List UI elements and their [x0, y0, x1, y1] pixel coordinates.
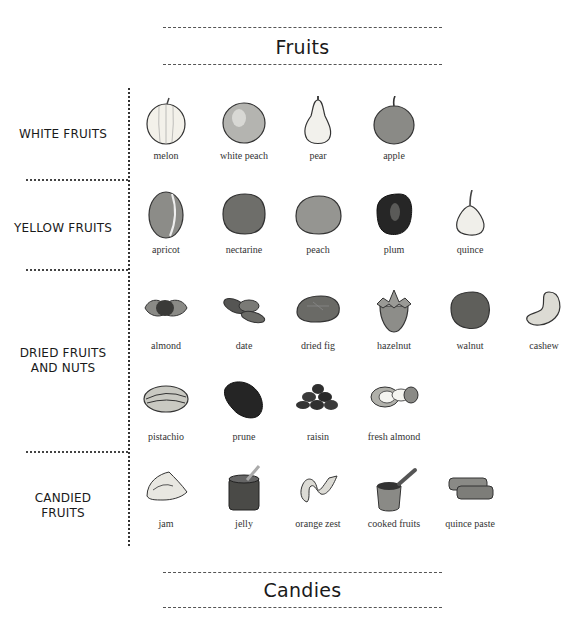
apricot-icon	[141, 190, 191, 240]
divider	[163, 64, 442, 65]
item-raisin: raisin	[280, 377, 356, 442]
category-label-line: CANDIED	[0, 491, 126, 506]
cashew-icon	[519, 286, 569, 336]
category-label-line: AND NUTS	[0, 361, 126, 376]
row-divider	[26, 179, 128, 181]
item-peach: peach	[280, 190, 356, 255]
divider	[163, 572, 442, 573]
item-quince-paste: quince paste	[432, 464, 508, 529]
item-melon: melon	[128, 96, 204, 161]
item-label: plum	[356, 244, 432, 255]
category-candied-fruits: CANDIED FRUITS	[0, 491, 126, 521]
nectarine-icon	[219, 190, 269, 240]
pistachio-icon	[141, 377, 191, 427]
item-walnut: walnut	[432, 286, 508, 351]
item-label: walnut	[432, 340, 508, 351]
row-divider	[26, 269, 128, 271]
candies-section-header: Candies	[163, 572, 442, 608]
pear-icon	[293, 96, 343, 146]
item-jam: jam	[128, 464, 204, 529]
item-date: date	[206, 286, 282, 351]
candies-title: Candies	[163, 575, 442, 605]
item-label: quince paste	[432, 518, 508, 529]
item-label: melon	[128, 150, 204, 161]
item-dried-fig: dried fig	[280, 286, 356, 351]
item-label: peach	[280, 244, 356, 255]
dried-fig-icon	[293, 286, 343, 336]
white-peach-icon	[219, 96, 269, 146]
item-label: jam	[128, 518, 204, 529]
category-label-line: FRUITS	[0, 506, 126, 521]
jam-icon	[141, 464, 191, 514]
item-label: pistachio	[128, 431, 204, 442]
item-label: cooked fruits	[356, 518, 432, 529]
walnut-icon	[445, 286, 495, 336]
item-label: apricot	[128, 244, 204, 255]
item-plum: plum	[356, 190, 432, 255]
prune-icon	[219, 377, 269, 427]
quince-icon	[445, 190, 495, 240]
jelly-icon	[219, 464, 269, 514]
row-divider	[26, 451, 128, 453]
melon-icon	[141, 96, 191, 146]
item-nectarine: nectarine	[206, 190, 282, 255]
orange-zest-icon	[293, 464, 343, 514]
category-label-line: DRIED FRUITS	[0, 346, 126, 361]
item-fresh-almond: fresh almond	[356, 377, 432, 442]
quince-paste-icon	[445, 464, 495, 514]
category-yellow-fruits: YELLOW FRUITS	[0, 221, 126, 236]
item-label: orange zest	[280, 518, 356, 529]
apple-icon	[369, 96, 419, 146]
item-label: pear	[280, 150, 356, 161]
hazelnut-icon	[369, 286, 419, 336]
raisin-icon	[293, 377, 343, 427]
divider	[163, 27, 442, 28]
cooked-fruits-icon	[369, 464, 419, 514]
almond-icon	[141, 286, 191, 336]
category-dried-fruits-and-nuts: DRIED FRUITS AND NUTS	[0, 346, 126, 376]
item-orange-zest: orange zest	[280, 464, 356, 529]
item-label: prune	[206, 431, 282, 442]
item-cashew: cashew	[506, 286, 579, 351]
item-prune: prune	[206, 377, 282, 442]
item-label: apple	[356, 150, 432, 161]
item-label: raisin	[280, 431, 356, 442]
item-label: quince	[432, 244, 508, 255]
item-apricot: apricot	[128, 190, 204, 255]
item-label: date	[206, 340, 282, 351]
item-jelly: jelly	[206, 464, 282, 529]
peach-icon	[293, 190, 343, 240]
item-label: cashew	[506, 340, 579, 351]
item-label: jelly	[206, 518, 282, 529]
item-pear: pear	[280, 96, 356, 161]
fruits-title: Fruits	[163, 32, 442, 62]
item-label: white peach	[206, 150, 282, 161]
item-pistachio: pistachio	[128, 377, 204, 442]
date-icon	[219, 286, 269, 336]
item-label: hazelnut	[356, 340, 432, 351]
category-white-fruits: WHITE FRUITS	[0, 127, 126, 142]
item-label: dried fig	[280, 340, 356, 351]
plum-icon	[369, 190, 419, 240]
item-label: fresh almond	[356, 431, 432, 442]
item-almond: almond	[128, 286, 204, 351]
item-hazelnut: hazelnut	[356, 286, 432, 351]
item-white-peach: white peach	[206, 96, 282, 161]
fruits-section-header: Fruits	[163, 27, 442, 65]
item-quince: quince	[432, 190, 508, 255]
fresh-almond-icon	[369, 377, 419, 427]
divider	[163, 607, 442, 608]
item-cooked-fruits: cooked fruits	[356, 464, 432, 529]
item-label: almond	[128, 340, 204, 351]
item-label: nectarine	[206, 244, 282, 255]
item-apple: apple	[356, 96, 432, 161]
